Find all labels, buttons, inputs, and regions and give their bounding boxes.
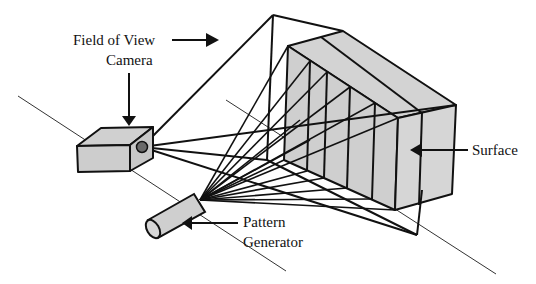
fov-arrowhead-icon <box>206 33 219 47</box>
field-of-view-label: Field of View <box>73 32 155 49</box>
camera <box>77 127 153 172</box>
pattern-label: Pattern <box>243 214 286 231</box>
structured-light-diagram: Field of View Camera Surface Pattern Gen… <box>0 0 536 284</box>
camera-arrowhead-icon <box>122 116 136 126</box>
pattern-generator <box>143 194 205 241</box>
surface-label: Surface <box>472 142 518 159</box>
camera-label: Camera <box>106 52 153 69</box>
surface-right-face <box>395 105 456 210</box>
camera-lens-icon <box>137 142 148 153</box>
surface-box <box>284 31 456 210</box>
generator-label: Generator <box>243 234 303 251</box>
camera-front-face <box>77 145 130 172</box>
